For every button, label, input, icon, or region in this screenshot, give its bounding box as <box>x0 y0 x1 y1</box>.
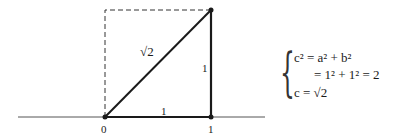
vertical-side-label: 1 <box>202 62 208 74</box>
pythagorean-equations: { c² = a² + b² = 1² + 1² = 2 c = √2 <box>280 44 408 108</box>
hypotenuse <box>105 10 211 117</box>
top-point <box>209 8 214 13</box>
origin-label: 0 <box>101 123 107 135</box>
one-label: 1 <box>208 123 214 135</box>
origin-point <box>103 115 108 120</box>
hypotenuse-label: √2 <box>140 44 154 59</box>
base-side-label: 1 <box>161 105 167 117</box>
unit-point <box>209 115 214 120</box>
equation-line-3: c = √2 <box>294 85 327 101</box>
equation-line-1: c² = a² + b² <box>294 50 351 66</box>
left-brace: { <box>280 44 295 100</box>
equation-line-2: = 1² + 1² = 2 <box>314 67 380 83</box>
